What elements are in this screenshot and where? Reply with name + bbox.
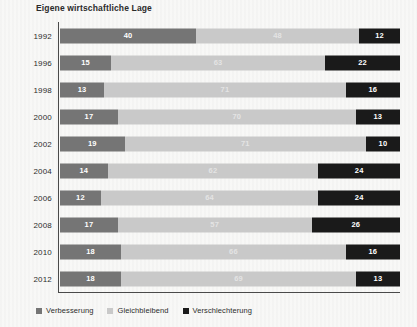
bar-value-label: 19 xyxy=(88,140,97,148)
bar-value-label: 13 xyxy=(374,113,383,121)
chart-legend: VerbesserungGleichbleibendVerschlechteru… xyxy=(36,306,252,315)
legend-swatch-icon xyxy=(36,308,42,314)
bar-row: 1992404812 xyxy=(0,22,417,49)
bar-row: 2000177013 xyxy=(0,103,417,130)
legend-label: Verschlechterung xyxy=(193,306,253,315)
x-axis-baseline xyxy=(58,292,400,293)
bar-value-label: 71 xyxy=(241,140,250,148)
bar-value-label: 70 xyxy=(232,113,241,121)
bar-segment: 69 xyxy=(121,271,356,286)
bar-segment: 16 xyxy=(346,82,400,97)
bar-value-label: 18 xyxy=(86,248,95,256)
bar-segment: 26 xyxy=(312,217,400,232)
bar-segment: 63 xyxy=(111,55,325,70)
y-axis-tick-label: 1996 xyxy=(0,58,52,67)
bar-row: 2010186616 xyxy=(0,238,417,265)
bar-segment: 14 xyxy=(60,163,108,178)
legend-item[interactable]: Gleichbleibend xyxy=(107,306,168,315)
bar-segment: 10 xyxy=(366,136,400,151)
stacked-bar: 137116 xyxy=(60,82,400,97)
bar-value-label: 12 xyxy=(375,32,384,40)
bar-segment: 18 xyxy=(60,244,121,259)
chart-title: Eigene wirtschaftliche Lage xyxy=(36,3,152,13)
legend-swatch-icon xyxy=(107,308,113,314)
bar-row: 1996156322 xyxy=(0,49,417,76)
bar-segment: 66 xyxy=(121,244,345,259)
bar-segment: 22 xyxy=(325,55,400,70)
bar-segment: 40 xyxy=(60,28,196,43)
legend-label: Verbesserung xyxy=(46,306,93,315)
bar-row: 2006126424 xyxy=(0,184,417,211)
bar-segment: 16 xyxy=(346,244,400,259)
legend-swatch-icon xyxy=(183,308,189,314)
bar-value-label: 17 xyxy=(85,221,94,229)
bar-row: 2002197110 xyxy=(0,130,417,157)
bar-value-label: 18 xyxy=(86,275,95,283)
bar-row: 2012186913 xyxy=(0,265,417,292)
bar-segment: 12 xyxy=(359,28,400,43)
bar-segment: 12 xyxy=(60,190,101,205)
y-axis-tick-label: 2012 xyxy=(0,274,52,283)
bar-segment: 48 xyxy=(196,28,359,43)
bar-value-label: 17 xyxy=(85,113,94,121)
bar-value-label: 16 xyxy=(368,248,377,256)
bar-segment: 62 xyxy=(108,163,319,178)
stacked-bar: 175726 xyxy=(60,217,400,232)
plot-area: 1992404812199615632219981371162000177013… xyxy=(0,22,417,294)
bar-segment: 13 xyxy=(356,109,400,124)
bar-value-label: 16 xyxy=(368,86,377,94)
bar-segment: 19 xyxy=(60,136,125,151)
bar-row: 2004146224 xyxy=(0,157,417,184)
bar-segment: 15 xyxy=(60,55,111,70)
y-axis-tick-label: 2000 xyxy=(0,112,52,121)
y-axis-tick-label: 2010 xyxy=(0,247,52,256)
bar-segment: 13 xyxy=(356,271,400,286)
bar-value-label: 22 xyxy=(358,59,367,67)
stacked-bar: 186616 xyxy=(60,244,400,259)
chart-container: Eigene wirtschaftliche Lage 199240481219… xyxy=(0,0,417,327)
legend-label: Gleichbleibend xyxy=(117,306,168,315)
y-axis-tick-label: 2004 xyxy=(0,166,52,175)
bar-value-label: 69 xyxy=(234,275,243,283)
bar-value-label: 24 xyxy=(355,167,364,175)
bar-value-label: 57 xyxy=(210,221,219,229)
bar-value-label: 26 xyxy=(351,221,360,229)
stacked-bar: 186913 xyxy=(60,271,400,286)
stacked-bar: 197110 xyxy=(60,136,400,151)
bar-value-label: 15 xyxy=(81,59,90,67)
y-axis-tick-label: 2006 xyxy=(0,193,52,202)
bar-segment: 24 xyxy=(318,163,400,178)
bar-segment: 18 xyxy=(60,271,121,286)
stacked-bar: 404812 xyxy=(60,28,400,43)
bar-segment: 17 xyxy=(60,109,118,124)
y-axis-tick-label: 1992 xyxy=(0,31,52,40)
bar-value-label: 12 xyxy=(76,194,85,202)
bar-segment: 70 xyxy=(118,109,356,124)
bar-segment: 24 xyxy=(318,190,400,205)
legend-item[interactable]: Verbesserung xyxy=(36,306,93,315)
bar-value-label: 71 xyxy=(221,86,230,94)
y-axis-tick-label: 2002 xyxy=(0,139,52,148)
legend-item[interactable]: Verschlechterung xyxy=(183,306,253,315)
bar-segment: 71 xyxy=(104,82,345,97)
bar-value-label: 64 xyxy=(205,194,214,202)
bar-row: 2008175726 xyxy=(0,211,417,238)
stacked-bar: 126424 xyxy=(60,190,400,205)
stacked-bar: 156322 xyxy=(60,55,400,70)
bar-value-label: 40 xyxy=(124,32,133,40)
bar-value-label: 63 xyxy=(214,59,223,67)
bar-value-label: 62 xyxy=(209,167,218,175)
bar-value-label: 14 xyxy=(79,167,88,175)
y-axis-tick-label: 1998 xyxy=(0,85,52,94)
bar-row: 1998137116 xyxy=(0,76,417,103)
bar-segment: 71 xyxy=(125,136,366,151)
bar-segment: 57 xyxy=(118,217,312,232)
y-axis-tick-label: 2008 xyxy=(0,220,52,229)
stacked-bar: 146224 xyxy=(60,163,400,178)
bar-value-label: 48 xyxy=(273,32,282,40)
bar-segment: 64 xyxy=(101,190,319,205)
bar-value-label: 10 xyxy=(379,140,388,148)
bar-value-label: 66 xyxy=(229,248,238,256)
bar-value-label: 24 xyxy=(355,194,364,202)
bar-segment: 17 xyxy=(60,217,118,232)
